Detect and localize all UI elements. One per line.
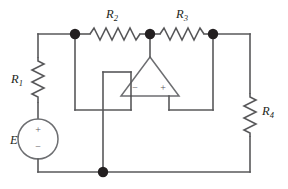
node-right-top bbox=[208, 29, 218, 39]
resistor-r4-symbol bbox=[244, 93, 256, 137]
opamp-symbol bbox=[121, 57, 179, 96]
opamp-noninverting-sign: + bbox=[160, 82, 166, 93]
label-source-e: E bbox=[9, 133, 18, 147]
opamp-inverting-sign: − bbox=[132, 82, 138, 93]
node-mid-top bbox=[145, 29, 155, 39]
source-plus-sign: + bbox=[35, 124, 41, 135]
resistor-r3-symbol bbox=[160, 28, 204, 40]
node-bottom bbox=[98, 167, 108, 177]
node-left-top bbox=[70, 29, 80, 39]
source-minus-sign: − bbox=[35, 141, 41, 152]
label-r2: R2 bbox=[105, 7, 119, 23]
label-r3: R3 bbox=[175, 7, 188, 23]
label-r4: R4 bbox=[261, 104, 275, 120]
resistor-r2-symbol bbox=[90, 28, 140, 40]
resistor-r1-symbol bbox=[32, 57, 44, 103]
label-r1: R1 bbox=[10, 72, 23, 88]
circuit-diagram: + − − + bbox=[0, 0, 288, 189]
schematic-canvas: + − − + bbox=[0, 0, 288, 189]
